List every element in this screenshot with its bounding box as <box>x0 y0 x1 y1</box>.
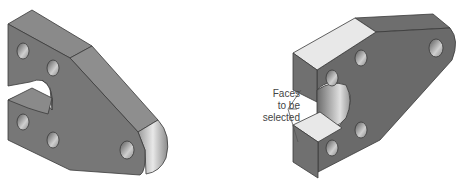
right-hole-3 <box>326 140 338 156</box>
right-hole-4 <box>355 122 367 138</box>
callout-line-1: Faces <box>240 88 300 100</box>
callout-line-2: to be <box>240 100 300 112</box>
bracket-drawing <box>0 0 461 186</box>
left-hole-5 <box>120 141 134 159</box>
left-hole-3 <box>17 114 29 130</box>
right-bracket-view <box>293 14 456 178</box>
callout-line-3: selected <box>240 112 300 124</box>
cad-figure: Faces to be selected <box>0 0 461 186</box>
left-hole-4 <box>47 132 59 148</box>
left-hole-1 <box>17 43 29 59</box>
right-hole-2 <box>355 50 367 66</box>
right-hole-1 <box>326 70 338 86</box>
left-hole-2 <box>47 60 59 76</box>
faces-callout-label: Faces to be selected <box>240 88 300 124</box>
right-hole-5 <box>429 39 443 57</box>
left-bracket-view <box>8 10 168 175</box>
